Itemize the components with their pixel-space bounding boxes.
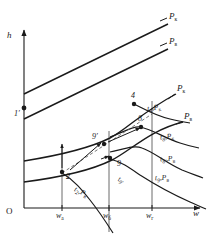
leader-pv-top xyxy=(160,43,167,46)
point-label-8: 8 xyxy=(138,115,142,123)
y-axis-label: h xyxy=(7,31,12,40)
point-label-9prime: 9′ xyxy=(92,133,98,141)
pk-top-base: P xyxy=(169,11,175,21)
state-points-group xyxy=(22,102,144,174)
point-label-9: 9 xyxy=(117,160,121,168)
isotherm-group xyxy=(62,104,206,233)
x-tick-label-wg: wг xyxy=(146,212,154,220)
x-axis-label: w xyxy=(193,209,199,218)
curve-label-pk-mid: Pк xyxy=(177,84,185,93)
point-9-dot xyxy=(108,156,112,160)
curve-label-t4-pk: t4,Pк xyxy=(147,103,162,112)
figure-container: h w O wа wб wг 1′ 4 8 9′ 9 2 Pк Pв Pк Pв… xyxy=(0,0,214,235)
pk-mid-base: P xyxy=(177,83,183,93)
x-tick-label-wa: wа xyxy=(56,212,64,220)
t8p-tail-sub: в xyxy=(172,157,175,163)
pv-top-sub: в xyxy=(175,41,178,47)
point-2-dot xyxy=(60,170,64,174)
point-label-1prime: 1′ xyxy=(14,110,20,118)
curve-label-t8-pk: t8,Pк xyxy=(160,132,175,141)
curve-label-t8prime-pv: t8′,Pв xyxy=(160,154,176,163)
curve-t2-pv xyxy=(62,173,113,233)
curve-label-pv-top: Pв xyxy=(169,37,177,46)
pv-mid-base: P xyxy=(184,111,190,121)
pv-top-base: P xyxy=(169,36,175,46)
arrow-to-9 xyxy=(101,156,109,159)
t4-sub: 4 xyxy=(149,107,153,113)
point-9prime-dot xyxy=(102,142,106,146)
tick-wb-sub: б xyxy=(108,215,111,221)
x-tick-label-wb: wб xyxy=(103,212,111,220)
origin-label: O xyxy=(6,207,13,216)
t9-sub: 9 xyxy=(157,177,160,183)
leader-pk-mid xyxy=(168,94,175,99)
point-8-dot xyxy=(139,125,143,129)
point-4-dot xyxy=(132,102,136,106)
curve-t9-pv xyxy=(110,159,206,209)
point-1prime-dot xyxy=(22,106,27,111)
arrow-9prime-to-8 xyxy=(108,128,140,142)
pk-top-sub: к xyxy=(175,16,178,22)
pv-mid-sub: в xyxy=(190,116,193,122)
pk-mid-sub: к xyxy=(183,88,186,94)
curve-label-t9-pv: t9,Pв xyxy=(155,174,169,182)
t9-tail-sub: в xyxy=(166,176,169,182)
leader-pk-top xyxy=(160,18,167,21)
axis-group xyxy=(24,30,200,208)
diagram-canvas xyxy=(0,0,214,235)
curve-label-pv-mid: Pв xyxy=(184,112,192,121)
t8-tail-sub: к xyxy=(171,135,174,141)
leader-lines-group xyxy=(160,18,182,124)
t8p-sub: 8′ xyxy=(162,158,166,164)
curve-label-pk-top: Pк xyxy=(169,12,177,21)
t8-sub: 8 xyxy=(162,136,165,142)
tick-wg-sub: г xyxy=(151,215,153,221)
tick-wa-sub: а xyxy=(61,215,63,221)
point-label-2: 2 xyxy=(66,173,70,181)
point-label-4: 4 xyxy=(131,92,135,100)
